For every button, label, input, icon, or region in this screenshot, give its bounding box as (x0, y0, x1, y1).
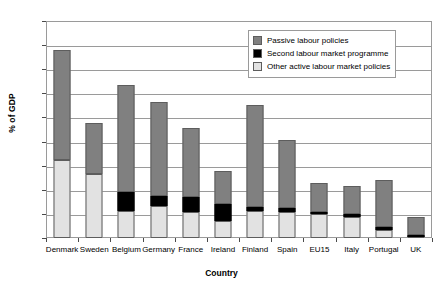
x-tick-label: Spain (277, 245, 297, 254)
segment-passive[interactable] (343, 186, 360, 214)
x-tick-label: Ireland (211, 245, 235, 254)
x-tick-mark (368, 238, 369, 242)
chart-legend: Passive labour policies Second labour ma… (248, 30, 396, 78)
segment-second-programme[interactable] (407, 235, 424, 237)
x-tick-mark (303, 238, 304, 242)
x-tick-mark (239, 238, 240, 242)
x-tick-label: Italy (344, 245, 359, 254)
x-tick-label: Belgium (112, 245, 141, 254)
segment-other-active[interactable] (86, 174, 103, 238)
segment-second-programme[interactable] (343, 214, 360, 217)
bar-slot (46, 21, 78, 238)
x-tick-label: Finland (242, 245, 268, 254)
segment-other-active[interactable] (150, 206, 167, 238)
bar-slot (143, 21, 175, 238)
x-tick-label: EU15 (309, 245, 329, 254)
x-tick-mark (110, 238, 111, 242)
segment-passive[interactable] (118, 85, 135, 192)
segment-other-active[interactable] (375, 230, 392, 238)
segment-second-programme[interactable] (247, 207, 264, 211)
x-tick-label: Germany (142, 245, 175, 254)
segment-second-programme[interactable] (118, 192, 135, 212)
x-tick-mark (78, 238, 79, 242)
legend-item-passive: Passive labour policies (253, 34, 390, 47)
segment-passive[interactable] (86, 123, 103, 174)
x-tick-mark (46, 238, 47, 242)
segment-second-programme[interactable] (375, 227, 392, 230)
segment-other-active[interactable] (214, 221, 231, 238)
segment-passive[interactable] (54, 50, 71, 160)
segment-second-programme[interactable] (311, 212, 328, 214)
segment-passive[interactable] (279, 140, 296, 208)
segment-passive[interactable] (247, 105, 264, 206)
x-tick-mark (432, 238, 433, 242)
x-tick-label: Portugal (369, 245, 399, 254)
x-tick-mark (336, 238, 337, 242)
legend-item-second: Second labour market programme (253, 47, 390, 60)
x-tick-mark (207, 238, 208, 242)
segment-passive[interactable] (214, 171, 231, 204)
segment-other-active[interactable] (343, 217, 360, 238)
segment-passive[interactable] (150, 102, 167, 197)
legend-item-other-active: Other active labour market policies (253, 60, 390, 73)
bar-slot (175, 21, 207, 238)
segment-second-programme[interactable] (150, 196, 167, 206)
bar-slot (400, 21, 432, 238)
stacked-bar-chart: % of GDP 00.511.522.533.544.5 DenmarkSwe… (0, 0, 443, 290)
bar-slot (207, 21, 239, 238)
segment-other-active[interactable] (54, 160, 71, 238)
segment-second-programme[interactable] (214, 204, 231, 221)
legend-label-passive: Passive labour policies (267, 36, 348, 45)
segment-other-active[interactable] (279, 212, 296, 238)
x-tick-mark (271, 238, 272, 242)
x-tick-label: UK (410, 245, 421, 254)
passive-swatch-icon (253, 36, 262, 45)
x-tick-mark (175, 238, 176, 242)
y-axis-title: % of GDP (7, 73, 17, 153)
segment-passive[interactable] (375, 180, 392, 227)
x-tick-mark (143, 238, 144, 242)
segment-passive[interactable] (182, 128, 199, 196)
x-tick-label: Denmark (46, 245, 78, 254)
second-swatch-icon (253, 49, 262, 58)
segment-other-active[interactable] (311, 214, 328, 238)
legend-label-second: Second labour market programme (267, 49, 388, 58)
other-active-swatch-icon (253, 62, 262, 71)
legend-label-other-active: Other active labour market policies (267, 62, 390, 71)
bar-slot (78, 21, 110, 238)
segment-passive[interactable] (311, 183, 328, 212)
x-tick-label: France (178, 245, 203, 254)
segment-other-active[interactable] (118, 211, 135, 238)
x-axis-title: Country (0, 268, 443, 278)
bar-slot (110, 21, 142, 238)
segment-second-programme[interactable] (182, 197, 199, 213)
segment-other-active[interactable] (182, 212, 199, 238)
x-tick-label: Sweden (80, 245, 109, 254)
x-tick-mark (400, 238, 401, 242)
segment-other-active[interactable] (247, 211, 264, 238)
segment-passive[interactable] (407, 217, 424, 235)
segment-second-programme[interactable] (279, 208, 296, 213)
